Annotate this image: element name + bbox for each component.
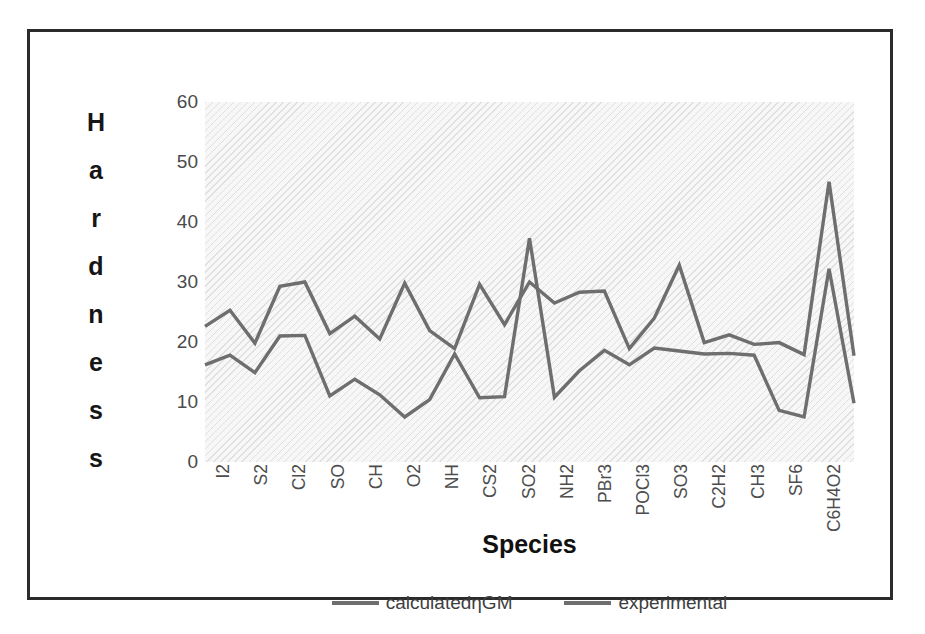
y-axis-title-letter: a [74,146,118,194]
y-tick-label: 30 [156,271,198,293]
legend-entry-calculated: calculatedηGM [332,592,513,614]
legend-entry-experimental: experimental [564,592,727,614]
y-tick-label: 0 [156,451,198,473]
x-tick-label: NH2 [561,464,575,534]
x-tick-label: O2 [408,464,422,534]
y-tick-label: 10 [156,391,198,413]
y-axis-title-letter: s [74,386,118,434]
legend-line-icon [564,601,611,605]
x-tick-label: C6H4O2 [828,464,842,534]
series-line-2 [205,238,854,417]
x-axis-title: Species [205,530,854,559]
y-axis-title-letter: H [74,98,118,146]
y-axis-title-letter: n [74,290,118,338]
x-tick-label: SO [332,464,346,534]
plot-area [205,102,854,462]
x-tick-label: CH [370,464,384,534]
series-line-1 [205,182,854,356]
y-axis-title: H a r d n e s s [74,98,118,482]
y-axis-title-letter: r [74,194,118,242]
x-tick-label: NH [446,464,460,534]
y-axis-title-letter: s [74,434,118,482]
x-axis-tick-labels: I2S2Cl2SOCHO2NHCS2SO2NH2PBr3POCl3SO3C2H2… [205,464,854,534]
y-tick-label: 40 [156,211,198,233]
x-tick-label: SO3 [675,464,689,534]
x-tick-label: PBr3 [599,464,613,534]
y-axis-tick-labels: 6050403020100 [148,102,198,462]
x-tick-label: S2 [255,464,269,534]
x-tick-label: CH3 [752,464,766,534]
x-tick-label: Cl2 [293,464,307,534]
y-tick-label: 50 [156,151,198,173]
legend-label: calculatedηGM [386,592,513,614]
x-tick-label: SO2 [523,464,537,534]
x-tick-label: SF6 [790,464,804,534]
figure-frame: H a r d n e s s 6050403020100 I2S2Cl2SOC… [27,29,893,600]
legend-label: experimental [618,592,727,614]
y-axis-title-letter: e [74,338,118,386]
chart-legend: calculatedηGM experimental [205,592,854,614]
x-tick-label: C2H2 [713,464,727,534]
y-tick-label: 20 [156,331,198,353]
x-tick-label: I2 [217,464,231,534]
legend-line-icon [332,601,379,605]
x-tick-label: POCl3 [637,464,651,534]
y-tick-label: 60 [156,91,198,113]
series-lines [205,102,854,462]
x-tick-label: CS2 [484,464,498,534]
y-axis-title-letter: d [74,242,118,290]
